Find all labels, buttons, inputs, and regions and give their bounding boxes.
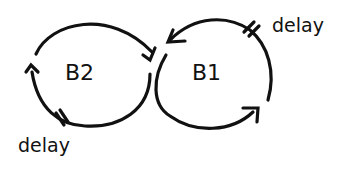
delay-marks-icon [244, 22, 259, 36]
causal-loop-diagram: B2 delay B1 delay [0, 0, 345, 178]
loop-label-b1: B1 [192, 60, 221, 85]
loop-b2: B2 delay [18, 24, 155, 156]
delay-label-b2: delay [18, 134, 70, 156]
loop-b1: B1 delay [156, 14, 324, 128]
delay-label-b1: delay [272, 14, 324, 36]
loop-label-b2: B2 [65, 60, 94, 85]
b2-top-arc [36, 24, 152, 54]
